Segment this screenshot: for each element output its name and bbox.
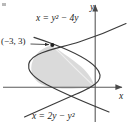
math-figure: x = y² − 4y x = 2y − y² (−3, 3) y x xyxy=(0,0,131,128)
shaded-region xyxy=(31,46,95,89)
intersection-point-dot xyxy=(50,43,54,47)
curve-label-lower-parabola: x = 2y − y² xyxy=(32,112,75,122)
y-axis-label: y xyxy=(90,3,94,13)
curve-label-upper-parabola: x = y² − 4y xyxy=(36,14,79,24)
point-leader-line xyxy=(31,44,50,45)
x-axis-label: x xyxy=(119,92,123,102)
intersection-point-label: (−3, 3) xyxy=(1,37,26,46)
